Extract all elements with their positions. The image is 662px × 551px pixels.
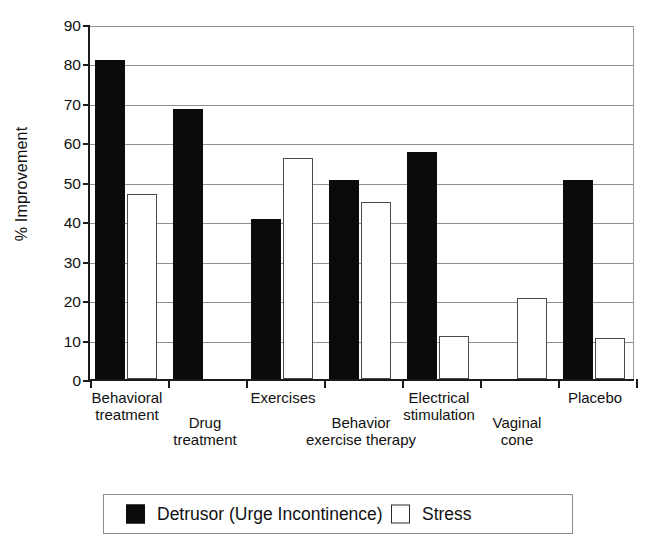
legend-entry-stress: Stress [391, 504, 472, 525]
bar-detrusor [329, 180, 359, 379]
bar-stress [283, 158, 313, 379]
x-axis-category-label: Exercises [213, 389, 353, 406]
y-axis-title: % Improvement [13, 94, 31, 274]
x-axis-tick-mark [168, 379, 170, 388]
chart-legend: Detrusor (Urge Incontinence) Stress [103, 494, 573, 534]
x-axis-tick-mark [636, 379, 638, 388]
x-axis-category-label: Vaginal cone [447, 414, 587, 448]
legend-label-detrusor: Detrusor (Urge Incontinence) [157, 504, 383, 525]
x-axis-tick-mark [402, 379, 404, 388]
y-axis-tick-mark [83, 262, 90, 264]
bar-detrusor [563, 180, 593, 379]
plot-area: 0102030405060708090 [88, 26, 634, 381]
legend-swatch-black-icon [126, 505, 145, 524]
x-axis-category-label: Drug treatment [135, 414, 275, 448]
gridline [90, 65, 634, 66]
x-axis-tick-mark [480, 379, 482, 388]
bar-detrusor [173, 109, 203, 379]
y-axis-tick-mark [83, 222, 90, 224]
y-axis-tick-mark [83, 104, 90, 106]
bar-detrusor [95, 60, 125, 380]
legend-swatch-white-icon [391, 505, 410, 524]
y-axis-tick-mark [83, 143, 90, 145]
bar-stress [595, 338, 625, 379]
y-axis-tick-mark [83, 380, 90, 382]
legend-label-stress: Stress [422, 504, 472, 525]
bar-stress [517, 298, 547, 379]
x-axis-tick-mark [558, 379, 560, 388]
gridline [90, 184, 634, 185]
bar-stress [361, 202, 391, 380]
bar-stress [127, 194, 157, 379]
y-axis-tick-mark [83, 25, 90, 27]
x-axis-tick-mark [90, 379, 92, 388]
plot-frame-right [633, 26, 634, 379]
y-axis-tick-mark [83, 341, 90, 343]
x-axis-tick-mark [246, 379, 248, 388]
x-axis-category-label: Placebo [525, 389, 662, 406]
y-axis-tick-mark [83, 301, 90, 303]
bar-chart-figure: % Improvement 0102030405060708090 Detrus… [0, 0, 662, 551]
legend-entry-detrusor: Detrusor (Urge Incontinence) [126, 504, 383, 525]
bar-detrusor [251, 219, 281, 379]
y-axis-tick-mark [83, 183, 90, 185]
y-axis-tick-mark [83, 64, 90, 66]
gridline [90, 26, 634, 27]
gridline [90, 144, 634, 145]
x-axis-tick-mark [324, 379, 326, 388]
bar-detrusor [407, 152, 437, 379]
bar-stress [439, 336, 469, 379]
gridline [90, 105, 634, 106]
